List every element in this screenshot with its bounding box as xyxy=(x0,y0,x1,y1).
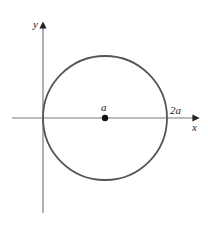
y-axis-label: y xyxy=(32,18,38,30)
diagram-canvas: y x a 2a xyxy=(0,0,208,225)
x-axis-label: x xyxy=(191,121,197,133)
center-label: a xyxy=(101,101,107,113)
intercept-label: 2a xyxy=(170,104,182,116)
center-point xyxy=(102,115,108,121)
